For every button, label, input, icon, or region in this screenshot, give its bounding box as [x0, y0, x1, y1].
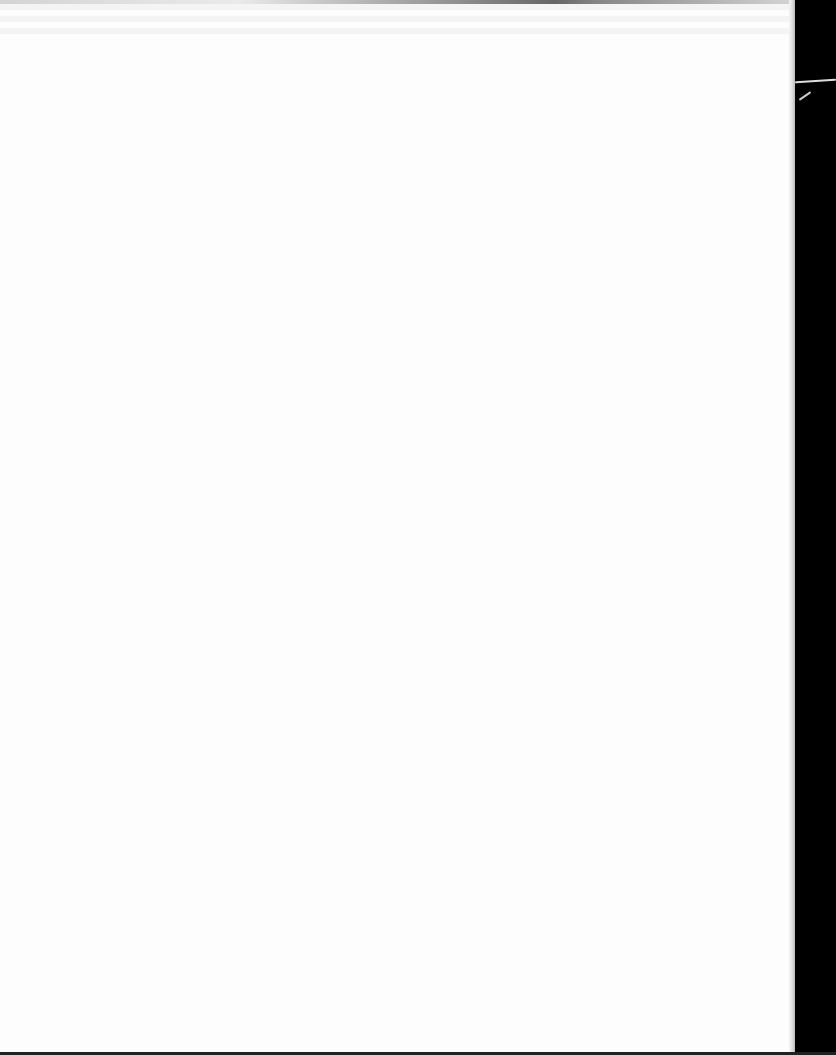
page-right-edge — [789, 0, 795, 1052]
bleed-through-text — [0, 4, 793, 34]
paper-fiber — [795, 79, 836, 84]
paper-fiber — [799, 91, 812, 101]
scanned-page — [0, 0, 793, 1052]
